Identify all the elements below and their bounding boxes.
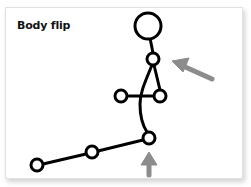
thigh-line [98, 140, 143, 151]
shin-line [43, 154, 86, 164]
joint-right-hand [154, 90, 166, 102]
side-arrow-icon [172, 58, 212, 79]
stick-figure-diagram [0, 0, 251, 187]
body-lines [43, 38, 160, 164]
spine-curve [140, 65, 152, 132]
joint-neck [147, 53, 159, 65]
joints [31, 53, 166, 171]
right-torso-line [154, 65, 160, 90]
head-circle [135, 13, 161, 39]
joint-foot [31, 159, 43, 171]
joint-hip [143, 132, 155, 144]
joint-knee [86, 146, 98, 158]
joint-left-hand [115, 90, 127, 102]
bottom-arrow-icon [141, 152, 157, 175]
